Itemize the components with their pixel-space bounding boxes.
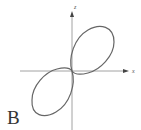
curve-lobe-upper-right: [71, 26, 114, 74]
panel-label: B: [7, 108, 20, 127]
y-axis-label: z: [74, 4, 76, 10]
x-axis-arrow-icon: [123, 69, 129, 73]
y-axis-arrow-icon: [70, 11, 74, 17]
curve-lobe-lower-left: [32, 68, 73, 116]
diagram-canvas: [0, 0, 141, 130]
x-axis-label: x: [132, 68, 135, 74]
